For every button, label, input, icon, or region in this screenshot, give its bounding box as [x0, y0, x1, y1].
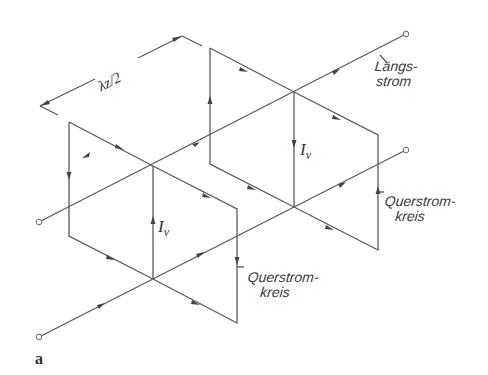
current-subscript: v	[164, 225, 169, 239]
circuit-diagram	[0, 0, 488, 375]
terminal-left-upper	[36, 219, 42, 225]
upper-longitudinal-line	[41, 35, 404, 221]
label-line-1: Querstrom-	[384, 194, 456, 209]
label-querstromkreis-bottom: Querstrom- kreis	[245, 270, 319, 300]
current-subscript: v	[306, 148, 311, 162]
current-label-right: Iv	[300, 140, 311, 163]
label-line-2: kreis	[245, 285, 317, 300]
label-line-1: Längs-	[374, 59, 418, 74]
dimension-line	[40, 36, 202, 115]
terminal-top-right	[403, 31, 409, 37]
label-laengsstrom: Längs- strom	[372, 59, 418, 89]
terminal-left-lower	[36, 334, 42, 340]
figure-label: a	[35, 350, 43, 368]
terminal-mid-right	[403, 147, 409, 153]
current-label-left: Iv	[158, 217, 169, 240]
lower-longitudinal-line	[41, 151, 404, 336]
label-querstromkreis-right: Querstrom- kreis	[382, 194, 456, 224]
label-line-1: Querstrom-	[247, 270, 319, 285]
label-line-2: strom	[372, 74, 416, 89]
label-line-2: kreis	[382, 209, 454, 224]
